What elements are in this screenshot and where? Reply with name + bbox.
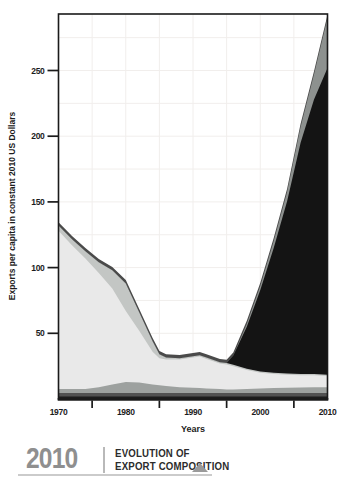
caption-divider [103,447,105,473]
y-tick-label: 150 [31,197,45,207]
caption-title-line2: EXPORT COMPOSITION [115,460,229,473]
x-tick-label: 1970 [50,407,68,417]
caption-year: 2010 [26,443,77,473]
x-tick-label: 1990 [184,407,202,417]
y-tick-label: 50 [36,328,45,338]
y-tick-label: 100 [31,263,45,273]
x-tick-label: 2010 [319,407,337,417]
x-tick-label: 2000 [251,407,269,417]
caption-underline [18,474,212,476]
y-tick-label: 200 [31,131,45,141]
y-tick-label: 250 [31,66,45,76]
chart-plot-area: 5010015020025019701980199020002010 [0,0,337,479]
export-composition-figure: Exports per capita in constant 2010 US D… [0,0,337,479]
x-axis-title: Years [158,424,228,434]
x-tick-label: 1980 [117,407,135,417]
triangle-up-icon [192,463,208,472]
figure-caption: 2010 EVOLUTION OF EXPORT COMPOSITION [0,440,337,479]
caption-title: EVOLUTION OF EXPORT COMPOSITION [115,447,229,473]
caption-title-line1: EVOLUTION OF [115,447,229,460]
